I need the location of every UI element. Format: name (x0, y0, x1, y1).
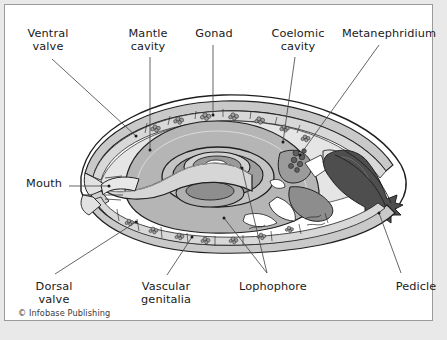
label-coelomic-cavity: Coelomic cavity (263, 27, 333, 53)
label-gonad: Gonad (190, 27, 238, 40)
label-ventral-valve: Ventral valve (15, 27, 81, 53)
leader-lophophore-a-endpoint (241, 167, 244, 170)
leader-gonad-endpoint (212, 114, 215, 117)
leader-ventral-valve (52, 59, 136, 136)
leader-ventral-valve-endpoint (135, 135, 138, 138)
leader-vascular-genitalia-endpoint (191, 236, 194, 239)
label-lophophore: Lophophore (233, 280, 313, 293)
label-mantle-cavity: Mantle cavity (116, 27, 180, 53)
figure-frame: Ventral valveMantle cavityGonadCoelomic … (4, 4, 433, 321)
leader-dorsal-valve (55, 222, 136, 274)
leader-pedicle-endpoint (378, 212, 381, 215)
label-metanephridium: Metanephridium (338, 27, 440, 40)
label-dorsal-valve: Dorsal valve (23, 280, 85, 306)
copyright-notice: © Infobase Publishing (18, 308, 110, 318)
label-vascular-genitalia: Vascular genitalia (131, 280, 201, 306)
leader-mouth-endpoint (108, 185, 111, 188)
label-mouth: Mouth (22, 177, 66, 190)
leader-dorsal-valve-endpoint (135, 221, 138, 224)
leader-lophophore-b-endpoint (223, 217, 226, 220)
leader-mantle-cavity-endpoint (149, 149, 152, 152)
leader-metanephridium-endpoint (299, 154, 302, 157)
leader-coelomic-cavity-endpoint (282, 141, 285, 144)
label-pedicle: Pedicle (390, 280, 442, 293)
